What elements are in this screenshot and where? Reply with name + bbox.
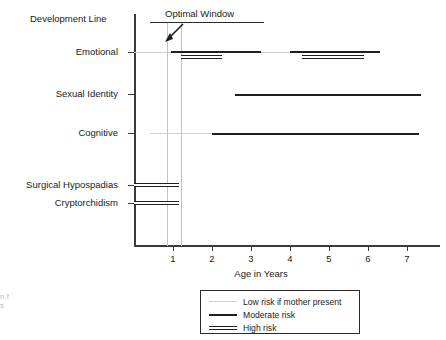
y-label-surgical-hypospadias: Surgical Hypospadias <box>26 180 118 190</box>
y-label-emotional: Emotional <box>76 47 118 57</box>
legend-swatch-low-risk-icon <box>209 301 237 302</box>
bar-emotional-high-2 <box>302 55 364 59</box>
x-tick-3 <box>251 246 252 251</box>
legend-label-low-risk: Low risk if mother present <box>243 296 341 308</box>
legend-swatch-moderate-risk-icon <box>209 314 237 316</box>
x-tick-1 <box>173 246 174 251</box>
x-axis-title-text: Age in Years <box>234 268 287 279</box>
x-tick-7 <box>407 246 408 251</box>
x-label-4: 4 <box>278 253 302 264</box>
caption-fragment: n f s <box>0 292 10 310</box>
x-label-1: 1 <box>161 253 185 264</box>
y-label-cognitive: Cognitive <box>78 128 118 138</box>
y-tick-sexual-identity <box>128 94 134 95</box>
x-label-5: 5 <box>317 253 341 264</box>
legend-box: Low risk if mother present Moderate risk… <box>200 290 360 334</box>
chart-canvas: Development Line Emotional Sexual Identi… <box>0 0 446 340</box>
bar-surgical-hypospadias-high <box>134 183 179 187</box>
x-tick-4 <box>290 246 291 251</box>
bar-sexual-identity-moderate <box>235 94 421 96</box>
y-tick-cognitive <box>128 133 134 134</box>
x-tick-5 <box>329 246 330 251</box>
x-tick-2 <box>212 246 213 251</box>
bar-cognitive-low-risk <box>150 133 212 134</box>
y-axis-line <box>134 14 136 246</box>
y-label-cryptorchidism: Cryptorchidism <box>55 198 118 208</box>
legend-label-moderate-risk: Moderate risk <box>243 309 295 321</box>
bar-emotional-high-1 <box>181 55 222 59</box>
x-axis-line <box>134 245 440 247</box>
legend-label-high-risk: High risk <box>243 322 276 334</box>
bar-cryptorchidism-high <box>134 201 179 205</box>
legend-swatch-high-risk-icon <box>209 326 237 330</box>
bar-cognitive-moderate <box>212 133 419 135</box>
x-tick-6 <box>368 246 369 251</box>
bar-emotional-moderate-1 <box>171 51 261 53</box>
x-axis-title: Age in Years <box>0 268 446 279</box>
x-label-7: 7 <box>395 253 419 264</box>
x-label-2: 2 <box>200 253 224 264</box>
y-axis-title: Development Line <box>30 13 107 24</box>
x-label-3: 3 <box>239 253 263 264</box>
optimal-window-arrow-icon <box>162 23 188 45</box>
optimal-window-label: Optimal Window <box>165 8 234 19</box>
bar-emotional-moderate-2 <box>290 51 380 53</box>
x-label-6: 6 <box>356 253 380 264</box>
y-label-sexual-identity: Sexual Identity <box>56 89 118 99</box>
